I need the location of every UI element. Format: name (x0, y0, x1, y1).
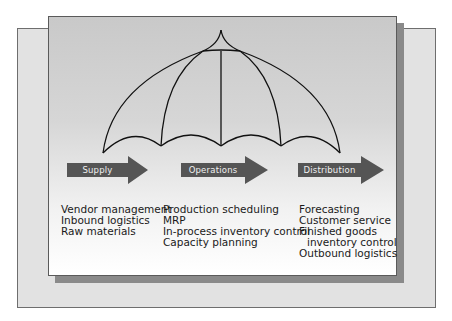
list-item: Capacity planning (163, 237, 310, 248)
operations-items: Production scheduling MRP In-process inv… (163, 204, 310, 248)
list-item: Raw materials (61, 226, 172, 237)
list-item: Outbound logistics (299, 248, 397, 259)
supply-label: Supply (67, 163, 128, 177)
umbrella-diagram (0, 0, 452, 321)
supply-items: Vendor management Inbound logistics Raw … (61, 204, 172, 237)
operations-label: Operations (181, 163, 245, 177)
distribution-label: Distribution (298, 163, 361, 177)
umbrella-icon (103, 30, 340, 153)
distribution-items: Forecasting Customer service Finished go… (299, 204, 397, 259)
